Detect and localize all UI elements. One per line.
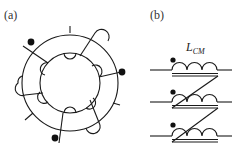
polarity-dot-icon	[28, 39, 35, 46]
core-link-2	[172, 108, 218, 142]
core-link-1	[172, 76, 218, 108]
inductor-coil-icon	[172, 95, 217, 103]
inductor-coil-icon	[172, 63, 217, 70]
choke-schematic	[150, 63, 232, 143]
polarity-dot-icon	[52, 135, 59, 142]
polarity-dot-icon	[170, 89, 175, 94]
choke-winding-3	[150, 129, 232, 142]
polarity-dot-icon	[170, 57, 175, 62]
polarity-dot-icon	[119, 69, 126, 76]
figure-canvas	[0, 0, 244, 151]
choke-winding-1	[150, 63, 232, 76]
toroid-inner-ring-icon	[40, 53, 100, 113]
toroid-winding-1	[15, 26, 70, 96]
choke-winding-2	[150, 95, 232, 109]
inductor-coil-icon	[172, 129, 217, 136]
toroid-outer-ring-icon	[22, 35, 118, 131]
polarity-dot-icon	[170, 122, 175, 127]
